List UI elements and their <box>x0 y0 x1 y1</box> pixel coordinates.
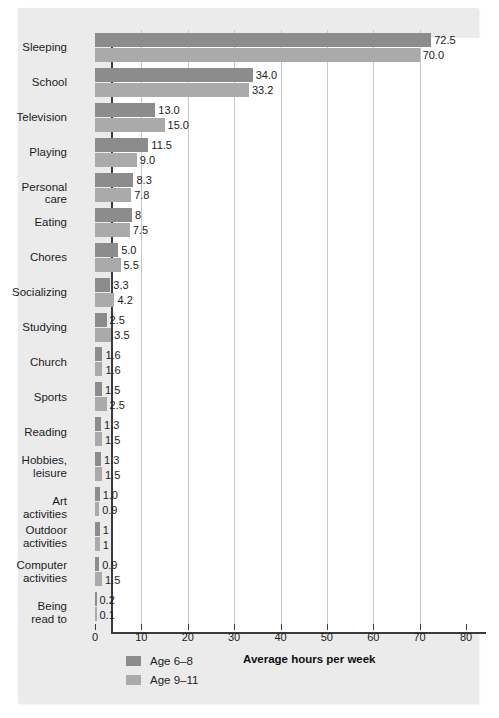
bar-value-label: 1.6 <box>105 348 120 362</box>
x-axis-tick <box>234 624 235 630</box>
bar-value-label: 2.5 <box>110 313 125 327</box>
category-label: Playing <box>29 146 74 159</box>
bar-value-label: 70.0 <box>423 48 444 62</box>
bar <box>95 103 155 117</box>
bar <box>95 83 249 97</box>
x-axis-tick-label: 80 <box>460 631 472 643</box>
x-axis-tick-label: 30 <box>228 631 240 643</box>
bar-value-label: 0.2 <box>100 593 115 607</box>
bar <box>95 48 420 62</box>
bar <box>95 347 102 361</box>
bar-value-label: 9.0 <box>140 153 155 167</box>
bar-value-label: 72.5 <box>434 33 455 47</box>
bar <box>95 173 133 187</box>
bar-value-label: 1.3 <box>104 453 119 467</box>
x-axis-tick <box>188 624 189 630</box>
bar <box>95 432 102 446</box>
bar <box>95 537 100 551</box>
bar-value-label: 15.0 <box>168 118 189 132</box>
bar-value-label: 1 <box>103 538 109 552</box>
bar <box>95 293 114 307</box>
bar-value-label: 3.3 <box>113 278 128 292</box>
bar <box>95 502 99 516</box>
bar <box>95 417 101 431</box>
gridline <box>281 30 282 624</box>
category-label: Being read to <box>18 600 74 625</box>
bar <box>95 208 132 222</box>
category-label: Sleeping <box>22 41 74 54</box>
x-axis-tick-label: 20 <box>182 631 194 643</box>
category-label: Hobbies, leisure <box>22 454 74 479</box>
bar-value-label: 11.5 <box>151 138 172 152</box>
bar-value-label: 2.5 <box>110 398 125 412</box>
bar-value-label: 8.3 <box>136 173 151 187</box>
bar <box>95 607 97 621</box>
bar-value-label: 13.0 <box>158 103 179 117</box>
category-label: Church <box>30 356 74 369</box>
category-label: School <box>32 76 74 89</box>
bar <box>95 557 99 571</box>
category-label: Outdoor activities <box>23 524 74 549</box>
bar-value-label: 34.0 <box>256 68 277 82</box>
x-axis-title: Average hours per week <box>243 653 376 665</box>
x-axis-tick <box>373 624 374 630</box>
category-label: Studying <box>22 321 74 334</box>
category-label: Personal care <box>18 181 74 206</box>
legend-swatch-icon <box>126 656 141 666</box>
bar <box>95 33 431 47</box>
legend-item-age-6-8[interactable]: Age 6–8 <box>126 651 198 670</box>
bar-value-label: 1.3 <box>104 418 119 432</box>
bar-value-label: 3.5 <box>114 328 129 342</box>
figure-panel: 01020304050607080 72.570.034.033.213.015… <box>18 8 478 703</box>
bar <box>95 592 97 606</box>
x-axis-tick <box>420 624 421 630</box>
bar <box>95 397 107 411</box>
category-label: Television <box>17 111 75 124</box>
bar-value-label: 1.5 <box>105 433 120 447</box>
bar-value-label: 8 <box>135 208 141 222</box>
bar <box>95 382 102 396</box>
bar-value-label: 1.5 <box>105 383 120 397</box>
x-axis-tick-label: 50 <box>321 631 333 643</box>
bar <box>95 153 137 167</box>
x-axis-tick <box>281 624 282 630</box>
bar <box>95 522 100 536</box>
bar <box>95 313 107 327</box>
legend-label: Age 6–8 <box>150 655 193 667</box>
x-axis-tick-label: 70 <box>414 631 426 643</box>
bar <box>95 467 102 481</box>
category-label: Computer activities <box>17 559 75 584</box>
x-axis-tick-label: 10 <box>135 631 147 643</box>
category-label: Reading <box>24 426 74 439</box>
bar-value-label: 5.0 <box>121 243 136 257</box>
bar <box>95 188 131 202</box>
bar-value-label: 0.9 <box>102 503 117 517</box>
x-axis-tick <box>141 624 142 630</box>
legend-item-age-9-11[interactable]: Age 9–11 <box>126 670 198 689</box>
gridline <box>420 30 421 624</box>
category-label: Art activities <box>18 495 74 520</box>
bar-value-label: 5.5 <box>124 258 139 272</box>
bar-value-label: 0.9 <box>102 558 117 572</box>
legend-swatch-icon <box>126 675 141 685</box>
category-label: Sports <box>34 391 74 404</box>
x-axis-tick-label: 0 <box>92 631 98 643</box>
x-axis-tick <box>466 624 467 630</box>
bar-value-label: 4.2 <box>117 293 132 307</box>
x-axis-tick-label: 60 <box>367 631 379 643</box>
bar <box>95 138 148 152</box>
x-axis-line <box>111 632 486 634</box>
bar-value-label: 1.0 <box>103 488 118 502</box>
bar <box>95 118 165 132</box>
bar <box>95 243 118 257</box>
chart-legend: Age 6–8 Age 9–11 <box>126 651 198 689</box>
bar-value-label: 1.6 <box>105 363 120 377</box>
bar-value-label: 1.5 <box>105 573 120 587</box>
bar <box>95 223 130 237</box>
bar <box>95 452 101 466</box>
category-label: Socializing <box>12 286 74 299</box>
x-axis-tick <box>95 624 96 630</box>
bar <box>95 487 100 501</box>
bar-value-label: 1 <box>103 523 109 537</box>
bar <box>95 278 110 292</box>
